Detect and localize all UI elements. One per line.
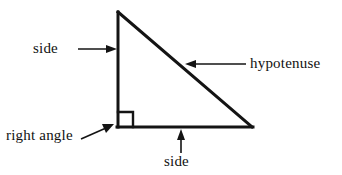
triangle-figure-svg [0, 0, 342, 175]
right-triangle-diagram: side hypotenuse right angle side [0, 0, 342, 175]
label-hypotenuse: hypotenuse [250, 56, 320, 71]
label-side-left: side [33, 41, 58, 56]
label-side-bottom: side [164, 154, 189, 169]
diagram-background [0, 0, 342, 175]
label-right-angle: right angle [6, 128, 73, 143]
